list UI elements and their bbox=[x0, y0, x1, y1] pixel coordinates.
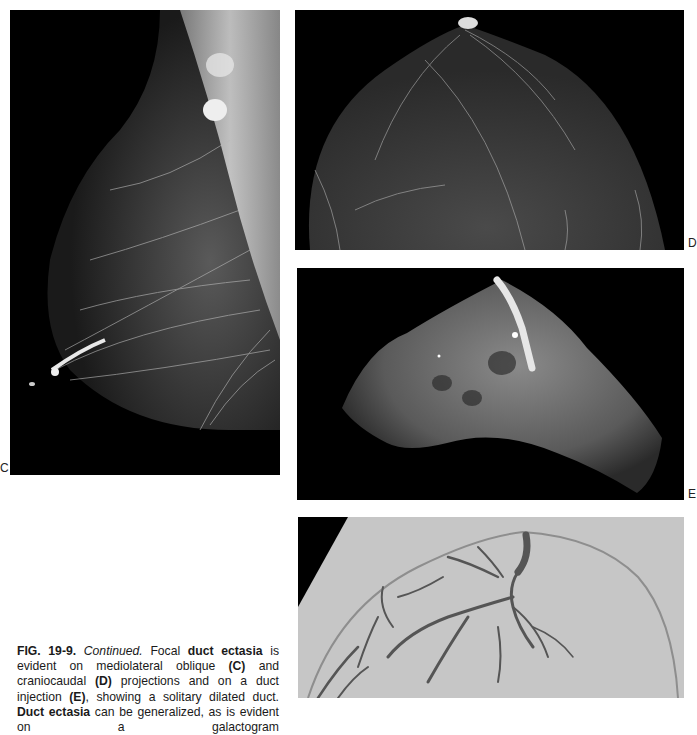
figure-panel-c-mlo-mammogram bbox=[10, 10, 280, 475]
duct-injection-image bbox=[297, 268, 684, 500]
caption-text: , showing a solitary dilated duct. bbox=[86, 690, 280, 704]
figure-panel-galactogram bbox=[298, 517, 684, 698]
figure-caption: FIG. 19-9. Continued. Focal duct ectasia… bbox=[17, 644, 279, 735]
mlo-mammogram-image bbox=[10, 10, 280, 475]
caption-term: Duct ectasia bbox=[17, 705, 90, 719]
continued-text: Continued. bbox=[84, 644, 143, 658]
panel-label-c: C bbox=[0, 461, 9, 475]
caption-panel-ref-d: (D) bbox=[95, 674, 112, 688]
caption-term: duct ectasia bbox=[188, 644, 263, 658]
galactogram-image bbox=[298, 517, 684, 698]
cc-mammogram-image bbox=[295, 10, 684, 250]
panel-label-e: E bbox=[688, 487, 696, 501]
figure-panel-d-cc-mammogram bbox=[295, 10, 684, 250]
caption-text: Focal bbox=[143, 644, 188, 658]
panel-label-d: D bbox=[688, 236, 697, 250]
figure-panel-e-duct-injection bbox=[297, 268, 684, 500]
figure-number: FIG. 19-9. bbox=[17, 644, 76, 658]
caption-panel-ref-e: (E) bbox=[69, 690, 85, 704]
caption-panel-ref-c: (C) bbox=[228, 659, 245, 673]
